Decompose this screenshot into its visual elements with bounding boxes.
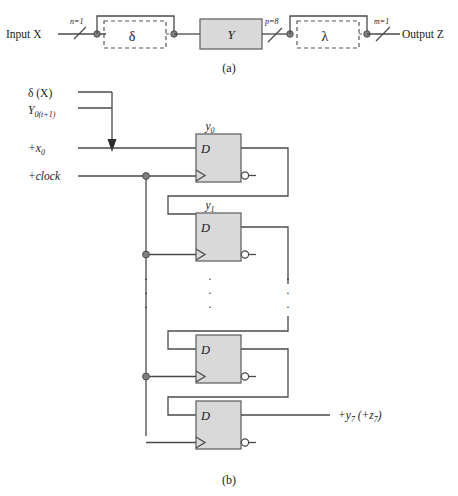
lambda-feedback-wire [290,16,367,34]
ellipsis-dot-mid-3: · [208,301,212,313]
ellipsis-dot-left-2: · [144,287,148,299]
flipflop-y1-qbar-bubble [241,251,248,258]
y7-output-label: +y7 (+z7) [338,409,382,424]
ellipsis-dot-right-2: · [286,287,290,299]
ellipsis-group: · · · · · · · · · [144,273,290,313]
delta-feedback-wire [97,16,174,34]
ellipsis-dot-right-1: · [286,273,290,285]
delta-x-label: δ (X) [28,87,52,100]
bus-slash-p [268,28,282,42]
input-x-label: Input X [6,28,42,41]
x0-label: +x0 [28,142,45,157]
flipflop-y7: y7 D [146,400,330,449]
flipflop-y6-qbar-bubble [241,373,248,380]
y7-output-paren-open: (+z [355,409,374,422]
flipflop-y0-d-label: D [200,142,210,156]
clock-label: +clock [28,170,61,182]
output-z-label: Output Z [402,28,444,41]
flipflop-y0-qbar-bubble [241,172,248,179]
bus-slash-n [74,27,86,39]
excitation-bus-arrowhead [108,139,117,152]
lambda-block-label: λ [322,29,329,44]
clock-junction-ff6 [143,373,150,380]
ellipsis-dot-mid-2: · [208,287,212,299]
x0-main: +x [28,142,42,154]
flipflop-y7-qbar-bubble [241,439,248,446]
caption-b: (b) [222,473,236,487]
y7-output-main: +y [338,409,352,422]
block-diagram-svg: Input X n=1 δ Y p=8 λ [0,0,458,496]
ellipsis-dot-left-3: · [144,301,148,313]
clock-junction-ff0 [143,173,150,180]
flipflop-y1: y1 D [143,199,288,284]
flipflop-y1-d-label: D [200,221,210,235]
delta-block-label: δ [129,29,136,44]
flipflop-y7-d-label: D [200,409,210,423]
clock-junction-ff1 [143,251,150,258]
figure-canvas: Input X n=1 δ Y p=8 λ [0,0,458,496]
y-next-sub: 0(t+1) [34,110,55,119]
y-next-label: Y0(t+1) [28,104,56,119]
x0-sub: 0 [41,148,45,157]
part-b-group: δ (X) Y0(t+1) +x0 +clock y0 D [28,87,382,487]
flipflop-y0: y0 D [168,120,288,214]
ellipsis-dot-right-3: · [286,301,290,313]
bus-p-label: p=8 [264,17,278,26]
bus-m-label: m=1 [374,17,389,26]
flipflop-y6-d-label: D [200,343,210,357]
part-a-group: Input X n=1 δ Y p=8 λ [6,16,444,75]
caption-a: (a) [222,61,235,75]
ellipsis-dot-mid-1: · [208,273,212,285]
flipflop-y1-label: y1 [204,199,214,214]
y7-output-paren-close: ) [377,409,382,422]
flipflop-y0-label: y0 [204,120,214,135]
bus-n-label: n=1 [70,17,83,26]
ellipsis-dot-left-1: · [144,273,148,285]
